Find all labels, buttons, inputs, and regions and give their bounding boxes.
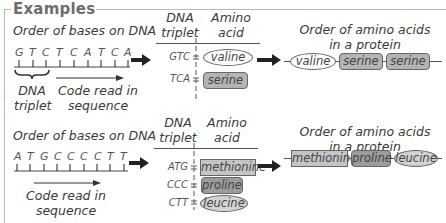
protein-proline: proline [351, 150, 391, 167]
protein-methionine: methionine [291, 150, 348, 167]
protein-label-line1: Order of amino acids [290, 124, 440, 139]
protein-leucine: leucine [394, 150, 438, 167]
right-arrow-icon [0, 0, 446, 223]
